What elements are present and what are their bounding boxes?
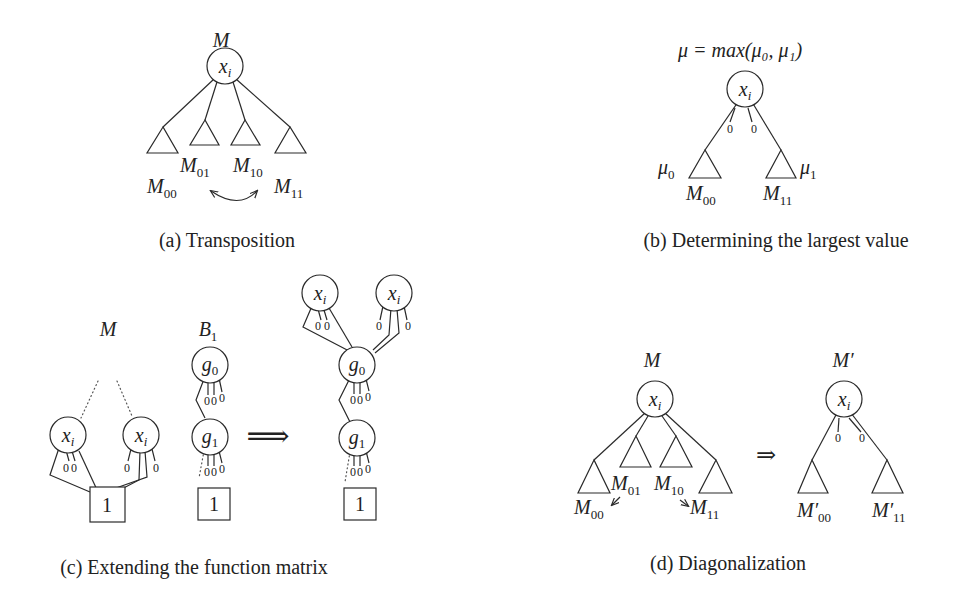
edge [79, 451, 98, 492]
zero-edge-mark: 0 [365, 390, 371, 404]
zero-edge-mark: 0 [350, 393, 356, 407]
edge [329, 308, 352, 347]
edge-stub [128, 449, 131, 461]
edge-stub [838, 418, 839, 432]
edge-stub [849, 418, 861, 432]
caption-d: (d) Diagonalization [650, 552, 806, 575]
caption-c: (c) Extending the function matrix [60, 556, 328, 579]
swap-arrow-icon [211, 191, 257, 201]
edge [339, 378, 350, 422]
label-b1: B1 [199, 318, 218, 344]
zero-edge-mark: 0 [204, 394, 210, 408]
label-m11: M11 [762, 182, 792, 208]
label-m10: M10 [232, 154, 263, 180]
figure-canvas: M xi M01 M10 M00 M11 (a) Transposition μ… [0, 0, 953, 595]
move-arrow-icon [680, 500, 688, 506]
label-m00: M00 [685, 182, 716, 208]
formula-max: μ = max(μ₀, μ₁) [677, 39, 803, 62]
diagram-diagonalization: M xi M01 M10 M00 M11 ⇒ M′ xi 0 0 M′00 M′… [573, 349, 906, 575]
subtree-m00-prime [798, 460, 828, 493]
zero-edge-mark: 0 [71, 461, 77, 475]
subtree-m10 [660, 436, 692, 467]
weight-mu0: μ0 [657, 156, 675, 182]
diagram-largest-value: μ = max(μ₀, μ₁) xi 0 0 μ0 μ1 M00 M11 (b)… [643, 39, 908, 252]
implies-arrow-icon: ⇒ [756, 442, 776, 468]
subtree-m11 [275, 127, 306, 153]
subtree-m01 [190, 120, 219, 145]
label-m01: M01 [610, 472, 641, 498]
label-m10: M10 [653, 472, 684, 498]
implies-arrow-icon: ⟹ [246, 419, 289, 452]
label-matrix-m: M [643, 349, 662, 371]
zero-edge-mark: 0 [405, 319, 411, 333]
subtree-m10 [231, 120, 260, 145]
edge [116, 451, 147, 488]
edge [233, 82, 245, 120]
zero-edge-mark: 0 [124, 461, 130, 475]
zero-edge-mark: 0 [859, 431, 865, 445]
subtree-m00 [689, 150, 721, 178]
terminal-label: 1 [355, 493, 365, 515]
diagram-extending-matrix: M B1 xi 0 0 xi 0 0 1 g0 0 0 0 [50, 275, 412, 579]
label-m00: M00 [573, 496, 604, 522]
label-m01: M01 [179, 154, 210, 180]
terminal-label: 1 [209, 493, 219, 515]
zero-edge-mark: 0 [324, 319, 330, 333]
edge [662, 416, 676, 436]
zero-edge-mark: 0 [153, 461, 159, 475]
zero-edge-mark: 0 [727, 122, 733, 136]
edge [851, 413, 887, 460]
subtree-m00 [578, 460, 610, 493]
zero-edge-mark: 0 [350, 465, 356, 479]
zero-edge-mark: 0 [365, 462, 371, 476]
diagram-transposition: M xi M01 M10 M00 M11 (a) Transposition [146, 29, 306, 252]
zero-edge-mark: 0 [204, 465, 210, 479]
label-m11: M11 [689, 496, 719, 522]
label-m11-prime: M′11 [871, 499, 906, 525]
subtree-m01 [620, 436, 651, 467]
zero-edge-mark: 0 [219, 462, 225, 476]
edge [50, 448, 90, 492]
zero-edge-mark: 0 [315, 319, 321, 333]
label-m00: M00 [146, 175, 177, 201]
zero-edge-mark: 0 [219, 391, 225, 405]
edge-stub [152, 449, 155, 461]
caption-b: (b) Determining the largest value [643, 229, 908, 252]
zero-edge-mark: 0 [835, 431, 841, 445]
zero-edge-mark: 0 [357, 393, 363, 407]
dotted-edge [117, 381, 132, 416]
edge [236, 79, 290, 127]
edge-stub [380, 306, 383, 320]
zero-edge-mark: 0 [376, 319, 382, 333]
zero-edge-mark: 0 [211, 465, 217, 479]
label-m11: M11 [273, 175, 303, 201]
move-arrow-icon [612, 497, 620, 505]
edge [205, 82, 217, 120]
label-matrix-m-prime: M′ [831, 349, 854, 371]
zero-edge-mark: 0 [63, 461, 69, 475]
zero-edge-mark: 0 [357, 465, 363, 479]
edge [163, 79, 214, 127]
dotted-edge [81, 381, 98, 418]
subtree-m00 [147, 127, 178, 153]
zero-edge-mark: 0 [751, 122, 757, 136]
edge-stub [748, 108, 752, 122]
label-matrix-m: M [99, 318, 118, 340]
terminal-label: 1 [102, 494, 112, 516]
weight-mu1: μ1 [799, 156, 817, 182]
subtree-m11-prime [872, 460, 903, 493]
edge [705, 102, 738, 150]
edge [812, 413, 837, 460]
caption-a: (a) Transposition [159, 229, 295, 252]
label-m00-prime: M′00 [796, 499, 831, 525]
zero-edge-mark: 0 [211, 394, 217, 408]
subtree-m11 [699, 460, 732, 493]
subtree-m11 [766, 150, 796, 178]
